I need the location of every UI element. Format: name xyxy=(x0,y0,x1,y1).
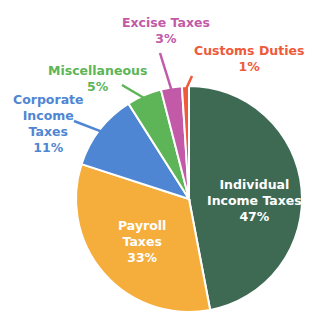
label-percent: 11% xyxy=(13,140,84,156)
label-line: Excise Taxes xyxy=(122,15,210,31)
leader-line xyxy=(160,53,172,91)
label-line: Individual xyxy=(207,177,302,193)
label-line: Income Taxes xyxy=(207,193,302,209)
label-percent: 1% xyxy=(194,59,304,75)
label-corporate-income-taxes: Corporate Income Taxes 11% xyxy=(13,92,84,156)
label-line: Customs Duties xyxy=(194,43,304,59)
label-line: Income xyxy=(13,108,84,124)
label-miscellaneous: Miscellaneous 5% xyxy=(48,63,147,95)
label-customs-duties: Customs Duties 1% xyxy=(194,43,304,75)
label-percent: 5% xyxy=(48,79,147,95)
label-line: Taxes xyxy=(118,234,166,250)
label-line: Taxes xyxy=(13,124,84,140)
label-individual-income-taxes: Individual Income Taxes 47% xyxy=(207,177,302,225)
label-line: Payroll xyxy=(118,218,166,234)
label-line: Miscellaneous xyxy=(48,63,147,79)
label-percent: 33% xyxy=(118,250,166,266)
label-percent: 47% xyxy=(207,209,302,225)
label-payroll-taxes: Payroll Taxes 33% xyxy=(118,218,166,266)
